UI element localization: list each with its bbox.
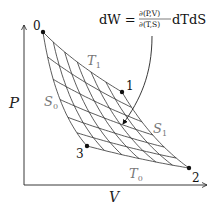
point-label-2: 2 (192, 171, 200, 185)
svg-text:dTdS: dTdS (172, 12, 206, 27)
diagram-canvas: P V 0123 T1S0S1T0 dW = ∂(P,V) ∂(T,S) dTd… (0, 0, 221, 211)
y-axis-label: P (8, 94, 20, 112)
point-label-1: 1 (126, 79, 134, 93)
svg-text:∂(P,V): ∂(P,V) (139, 9, 160, 18)
curve-label-S0: S0 (44, 94, 58, 111)
point-3 (85, 144, 89, 148)
point-2 (187, 166, 191, 170)
isotherm-adiabat-grid (43, 32, 189, 168)
svg-text:dW =: dW = (99, 12, 136, 27)
point-1 (120, 90, 124, 94)
work-formula: dW = ∂(P,V) ∂(T,S) dTdS (99, 9, 206, 29)
curve-label-S1: S1 (153, 121, 167, 138)
x-axis-label: V (109, 189, 121, 205)
point-label-3: 3 (76, 147, 84, 161)
curve-labels: T1S0S1T0 (44, 53, 167, 183)
curve-label-T0: T0 (129, 166, 143, 183)
point-0 (41, 30, 45, 34)
svg-text:∂(T,S): ∂(T,S) (139, 20, 160, 29)
carnot-diagram: P V 0123 T1S0S1T0 dW = ∂(P,V) ∂(T,S) dTd… (0, 0, 221, 211)
curve-label-T1: T1 (87, 53, 101, 70)
point-label-0: 0 (33, 19, 41, 33)
